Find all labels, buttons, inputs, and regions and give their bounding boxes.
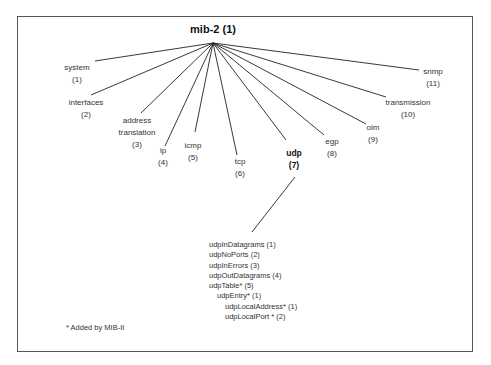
node-egp: egp(8) [325,136,338,160]
footnote: * Added by MIB-II [66,323,124,332]
node-name: translation [119,127,156,139]
edge-system [95,43,213,61]
udp-object: udpEntry* (1) [209,291,297,301]
node-name: egp [325,136,338,148]
udp-subtree-list: udpInDatagrams (1)udpNoPorts (2)udpInErr… [209,240,297,322]
udp-object: udpNoPorts (2) [209,250,297,260]
node-name: udp [286,147,302,159]
node-number: (5) [185,152,202,164]
node-number: (8) [325,148,338,160]
node-number: (3) [119,139,156,151]
edge-udp [213,43,286,140]
node-transmission: transmission(10) [386,97,431,121]
node-name: address [119,115,156,127]
node-name: icmp [185,140,202,152]
node-name: tcp [235,156,246,168]
node-number: (6) [235,168,246,180]
edge-icmp [195,43,213,132]
node-snmp: snmp(11) [423,66,443,90]
node-tcp: tcp(6) [235,156,246,180]
node-ip: ip(4) [158,145,168,169]
node-number: (10) [386,109,431,121]
udp-object: udpLocalAddress* (1) [209,302,297,312]
node-name: system [64,62,89,74]
edge-udp-subtree [252,177,295,232]
node-number: (11) [423,78,443,90]
node-icmp: icmp(5) [185,140,202,164]
node-number: (4) [158,157,168,169]
node-number: (9) [367,134,380,146]
node-system: system(1) [64,62,89,86]
root-node-mib-2: mib-2 (1) [190,23,236,35]
node-number: (2) [69,109,104,121]
node-name: snmp [423,66,443,78]
node-name: ip [158,145,168,157]
edge-ip [165,43,213,146]
udp-object: udpTable* (5) [209,281,297,291]
udp-object: udpOutDatagrams (4) [209,271,297,281]
node-name: interfaces [69,97,104,109]
udp-object: udpInDatagrams (1) [209,240,297,250]
node-udp: udp(7) [286,147,302,171]
node-oim: oim(9) [367,122,380,146]
udp-object: udpInErrors (3) [209,261,297,271]
node-number: (7) [286,159,302,171]
edge-address-translation [141,43,213,113]
edge-interfaces [91,43,213,95]
edge-snmp [213,43,419,70]
node-address-translation: addresstranslation(3) [119,115,156,151]
node-number: (1) [64,74,89,86]
node-interfaces: interfaces(2) [69,97,104,121]
node-name: transmission [386,97,431,109]
node-name: oim [367,122,380,134]
udp-object: udpLocalPort * (2) [209,312,297,322]
